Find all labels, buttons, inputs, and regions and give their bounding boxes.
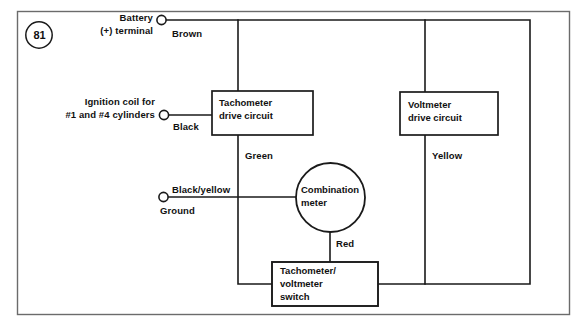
- tachometer-drive-circuit-label-line1: Tachometer: [219, 97, 272, 110]
- voltmeter-drive-circuit-label-line1: Voltmeter: [408, 99, 451, 112]
- wire-label-brown: Brown: [172, 28, 202, 41]
- ignition-coil-label-line2: #1 and #4 cylinders: [30, 109, 155, 122]
- ignition-coil-label-line1: Ignition coil for: [30, 96, 155, 109]
- voltmeter-drive-circuit-label-line2: drive circuit: [408, 112, 462, 125]
- wiring-diagram-figure: 81 Battery (+) terminal Brown Ignition c…: [0, 0, 580, 326]
- wire-label-black: Black: [173, 121, 199, 134]
- battery-terminal-connector: [157, 15, 166, 24]
- wire-label-red: Red: [336, 238, 354, 251]
- ground-terminal-label: Ground: [160, 205, 195, 218]
- wire-label-green: Green: [245, 150, 273, 163]
- battery-terminal-label-line1: Battery: [60, 12, 153, 25]
- tachometer-drive-circuit-label-line2: drive circuit: [219, 110, 273, 123]
- ground-terminal-connector: [159, 192, 168, 201]
- switch-label-line3: switch: [280, 291, 310, 304]
- figure-number: 81: [26, 22, 53, 49]
- ignition-coil-terminal-connector: [159, 110, 168, 119]
- wire-label-black-yellow: Black/yellow: [172, 184, 230, 197]
- wire-yellow: [378, 135, 425, 284]
- switch-label-line1: Tachometer/: [280, 265, 336, 278]
- combination-meter-label-line2: meter: [301, 197, 327, 210]
- wire-label-yellow: Yellow: [432, 150, 462, 163]
- combination-meter-label-line1: Combination: [301, 184, 359, 197]
- battery-terminal-label-line2: (+) terminal: [60, 25, 153, 38]
- switch-label-line2: voltmeter: [280, 278, 323, 291]
